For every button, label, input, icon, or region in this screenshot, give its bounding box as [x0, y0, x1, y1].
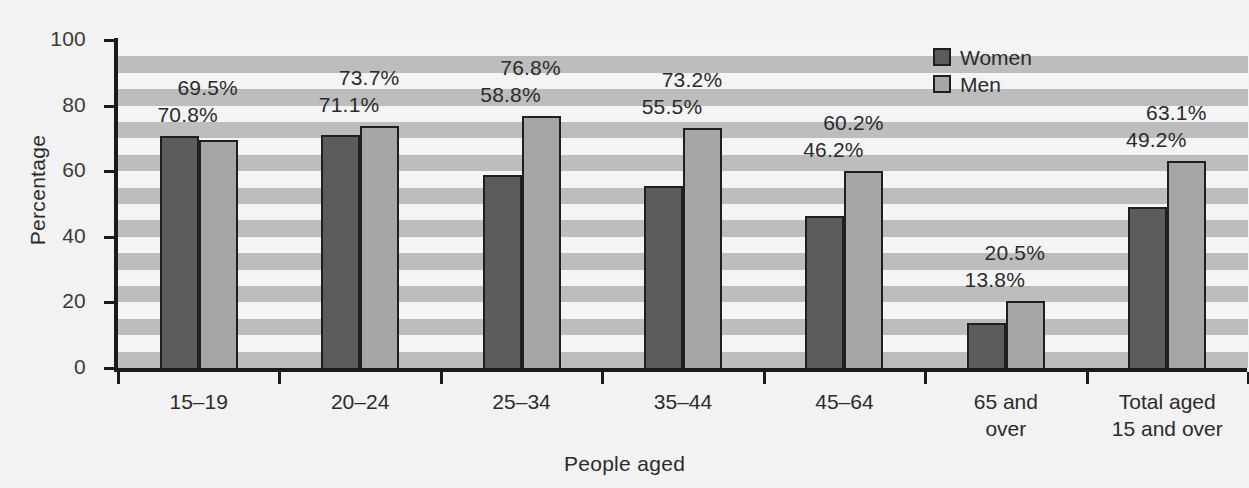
y-axis-tick: [104, 367, 115, 370]
value-label-women-5: 13.8%: [940, 268, 1050, 292]
bar-women-1: [321, 135, 360, 370]
chart-legend: Women Men: [933, 46, 1032, 100]
y-axis-line: [114, 38, 118, 372]
y-axis-tick-label: 60: [62, 158, 86, 182]
legend-item-women: Women: [933, 46, 1032, 68]
legend-swatch-women-icon: [933, 48, 951, 66]
x-axis-line: [114, 368, 1247, 372]
x-axis-tick: [440, 372, 443, 384]
bar-women-0: [160, 136, 199, 370]
x-axis-tick: [1086, 372, 1089, 384]
value-label-women-0: 70.8%: [133, 103, 243, 127]
grid-band: [118, 40, 1248, 56]
x-axis-tick: [924, 372, 927, 384]
x-axis-tick: [601, 372, 604, 384]
x-axis-category-label-3: 35–44: [602, 388, 763, 415]
value-label-men-1: 73.7%: [314, 66, 424, 90]
x-axis-category-label-1: 20–24: [279, 388, 440, 415]
x-axis-category-label-5: 65 and over: [925, 388, 1086, 442]
legend-label-men: Men: [960, 74, 1001, 95]
bar-women-5: [967, 323, 1006, 370]
value-label-men-6: 63.1%: [1121, 101, 1231, 125]
value-label-men-4: 60.2%: [798, 111, 908, 135]
x-axis-category-label-2: 25–34: [441, 388, 602, 415]
y-axis-tick: [104, 236, 115, 239]
bar-men-0: [199, 140, 238, 370]
x-axis-category-label-0: 15–19: [118, 388, 279, 415]
bar-women-6: [1128, 207, 1167, 370]
legend-item-men: Men: [933, 73, 1032, 95]
bar-women-3: [644, 186, 683, 370]
value-label-women-4: 46.2%: [778, 138, 888, 162]
value-label-women-2: 58.8%: [456, 83, 566, 107]
x-axis-category-label-6: Total aged 15 and over: [1087, 388, 1248, 442]
value-label-men-5: 20.5%: [960, 241, 1070, 265]
bar-men-4: [844, 171, 883, 370]
value-label-men-0: 69.5%: [153, 76, 263, 100]
bar-women-4: [805, 216, 844, 370]
value-label-women-6: 49.2%: [1101, 128, 1211, 152]
x-axis-tick: [278, 372, 281, 384]
legend-swatch-men-icon: [933, 75, 951, 93]
y-axis-title: Percentage: [26, 90, 50, 290]
bar-men-1: [360, 126, 399, 370]
y-axis-tick: [104, 105, 115, 108]
x-axis-category-label-4: 45–64: [764, 388, 925, 415]
bar-men-5: [1006, 301, 1045, 370]
x-axis-tick: [117, 372, 120, 384]
value-label-men-2: 76.8%: [476, 56, 586, 80]
y-axis-tick: [104, 39, 115, 42]
bar-women-2: [483, 175, 522, 370]
bar-men-2: [522, 116, 561, 370]
y-axis-tick: [104, 301, 115, 304]
y-axis-tick-label: 80: [62, 93, 86, 117]
bar-men-3: [683, 128, 722, 370]
chart-figure: 69.5%70.8%73.7%71.1%76.8%58.8%73.2%55.5%…: [0, 0, 1249, 488]
legend-label-women: Women: [960, 47, 1032, 68]
x-axis-title: People aged: [0, 452, 1249, 476]
y-axis-tick-label: 20: [62, 289, 86, 313]
y-axis-tick-label: 0: [74, 355, 86, 379]
value-label-men-3: 73.2%: [637, 68, 747, 92]
x-axis-tick: [763, 372, 766, 384]
value-label-women-1: 71.1%: [294, 93, 404, 117]
y-axis-tick-label: 100: [50, 27, 86, 51]
y-axis-tick: [104, 170, 115, 173]
bar-men-6: [1167, 161, 1206, 370]
y-axis-tick-label: 40: [62, 224, 86, 248]
value-label-women-3: 55.5%: [617, 95, 727, 119]
